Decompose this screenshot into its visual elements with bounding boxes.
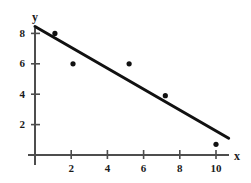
x-tick-label-3: 8 <box>172 163 188 174</box>
y-tick-label-1: 4 <box>11 89 25 100</box>
x-axis-title: x <box>234 150 240 162</box>
y-axis-title: y <box>32 11 38 23</box>
y-tick-label-3: 8 <box>11 28 25 39</box>
y-tick-label-2: 6 <box>11 58 25 69</box>
x-tick-label-0: 2 <box>63 163 79 174</box>
axis-ticks-group <box>31 33 216 159</box>
regression-line-group <box>35 27 229 139</box>
plot-canvas <box>0 0 251 183</box>
x-tick-label-4: 10 <box>208 163 224 174</box>
data-point-1 <box>70 61 75 66</box>
regression-line <box>35 27 229 139</box>
axes-group <box>28 28 229 165</box>
x-tick-label-1: 4 <box>99 163 115 174</box>
chart-figure: 2468246810 y x <box>0 0 251 183</box>
data-points-group <box>52 31 218 147</box>
data-point-4 <box>213 142 218 147</box>
data-point-2 <box>127 61 132 66</box>
data-point-0 <box>52 31 57 36</box>
y-tick-label-0: 2 <box>11 119 25 130</box>
x-tick-label-2: 6 <box>136 163 152 174</box>
data-point-3 <box>163 93 168 98</box>
